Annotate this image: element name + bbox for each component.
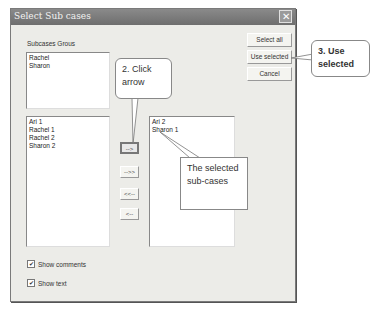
- list-item[interactable]: Sharon 1: [152, 126, 232, 134]
- dialog-title: Select Sub cases: [14, 11, 91, 21]
- groups-listbox[interactable]: Rachel Sharon: [26, 52, 110, 109]
- select-all-button[interactable]: Select all: [247, 33, 292, 47]
- show-comments-checkbox[interactable]: ✔ Show comments: [27, 260, 86, 268]
- move-right-button[interactable]: -->: [120, 142, 139, 154]
- checkbox-icon[interactable]: ✔: [27, 260, 35, 268]
- cancel-button[interactable]: Cancel: [247, 67, 292, 81]
- list-item[interactable]: Sharon 2: [29, 142, 107, 150]
- annotation-click-arrow: 2. Click arrow: [115, 58, 172, 99]
- annotation-use-selected: 3. Use selected: [311, 40, 370, 77]
- list-item[interactable]: Rachel 1: [29, 126, 107, 134]
- available-subcases-listbox[interactable]: Ari 1 Rachel 1 Rachel 2 Sharon 2: [26, 116, 110, 247]
- list-item[interactable]: Rachel: [29, 54, 107, 62]
- show-text-label: Show text: [38, 280, 67, 287]
- list-item[interactable]: Rachel 2: [29, 134, 107, 142]
- subcases-group-label: Subcases Grous: [27, 40, 75, 47]
- annotation-selected-subcases: The selected sub-cases: [180, 157, 248, 210]
- show-comments-label: Show comments: [38, 261, 86, 268]
- list-item[interactable]: Ari 1: [29, 118, 107, 126]
- move-all-right-button[interactable]: -->>: [120, 166, 139, 178]
- title-bar: Select Sub cases ✕: [11, 9, 295, 25]
- use-selected-button[interactable]: Use selected: [247, 50, 292, 64]
- close-icon[interactable]: ✕: [279, 10, 292, 23]
- move-all-left-button[interactable]: <<--: [120, 188, 139, 200]
- show-text-checkbox[interactable]: ✔ Show text: [27, 279, 67, 287]
- move-left-button[interactable]: <--: [120, 208, 139, 220]
- list-item[interactable]: Ari 2: [152, 118, 232, 126]
- list-item[interactable]: Sharon: [29, 62, 107, 70]
- checkbox-icon[interactable]: ✔: [27, 279, 35, 287]
- select-sub-cases-dialog: Select Sub cases ✕ Subcases Grous Rachel…: [10, 8, 296, 302]
